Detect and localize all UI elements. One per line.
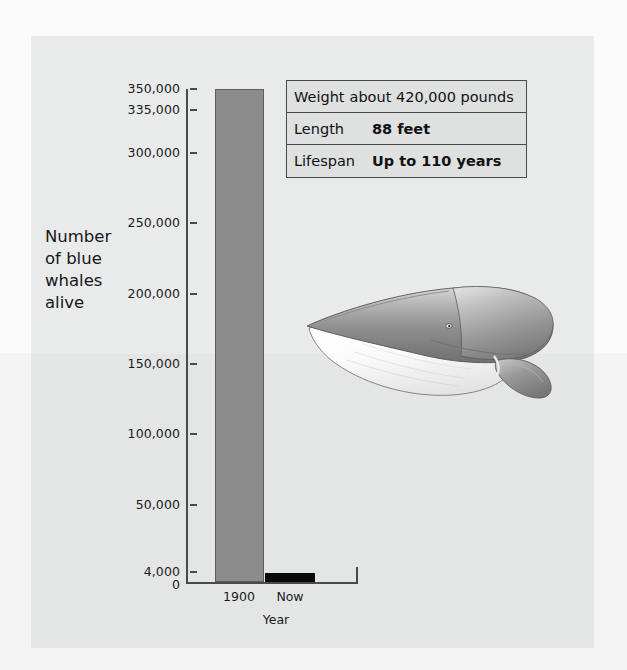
y-axis-title-line-2: of blue (45, 248, 153, 270)
y-tick-300000: 300,000 (41, 147, 180, 159)
x-axis-line (186, 582, 358, 584)
y-tick-label-335000: 335,000 (94, 104, 180, 116)
fact-value-length: 88 feet (372, 121, 430, 137)
whale-facts-table: Weight about 420,000 pounds Length 88 fe… (286, 80, 527, 178)
y-tick-335000: 335,000 (41, 104, 180, 116)
whale-flipper (495, 359, 551, 398)
fact-value-weight: about 420,000 pounds (350, 89, 514, 105)
y-tick-label-4000: 4,000 (94, 566, 180, 578)
whale-head (453, 286, 553, 359)
y-tick-label-0: 0 (94, 579, 180, 591)
x-axis-title: Year (221, 612, 331, 627)
y-axis-line (186, 89, 188, 584)
table-row-weight: Weight about 420,000 pounds (287, 81, 526, 113)
y-tick-label-200000: 200,000 (94, 288, 180, 300)
y-tick-label-250000: 250,000 (94, 217, 180, 229)
y-tick-label-300000: 300,000 (94, 147, 180, 159)
y-tick-0: 0 (41, 579, 180, 591)
y-tick-100000: 100,000 (41, 428, 180, 440)
fact-value-lifespan: Up to 110 years (372, 153, 501, 169)
y-tick-label-150000: 150,000 (94, 358, 180, 370)
fact-label-lifespan: Lifespan (294, 153, 372, 169)
fact-label-length: Length (294, 121, 372, 137)
y-tick-200000: 200,000 (41, 288, 180, 300)
poster-panel: Number of blue whales alive 350,000 335,… (31, 36, 594, 648)
y-tick-50000: 50,000 (41, 499, 180, 511)
y-tick-row-spacer (41, 83, 180, 95)
y-tick-label-100000: 100,000 (94, 428, 180, 440)
bar-now[interactable] (265, 573, 315, 582)
y-tick-250000: 250,000 (41, 217, 180, 229)
y-tick-4000: 4,000 (41, 566, 180, 578)
fact-label-weight: Weight (294, 89, 345, 105)
y-tick-label-50000: 50,000 (94, 499, 180, 511)
bar-1900[interactable] (215, 89, 264, 582)
table-row-length: Length 88 feet (287, 113, 526, 145)
x-axis-end-cap (356, 567, 358, 584)
table-row-lifespan: Lifespan Up to 110 years (287, 145, 526, 177)
y-tick-150000: 150,000 (41, 358, 180, 370)
bar-chart: Number of blue whales alive 350,000 335,… (31, 36, 594, 648)
whale-pupil (448, 325, 451, 327)
x-tick-label-now: Now (260, 589, 320, 604)
blue-whale-illustration (303, 264, 559, 400)
